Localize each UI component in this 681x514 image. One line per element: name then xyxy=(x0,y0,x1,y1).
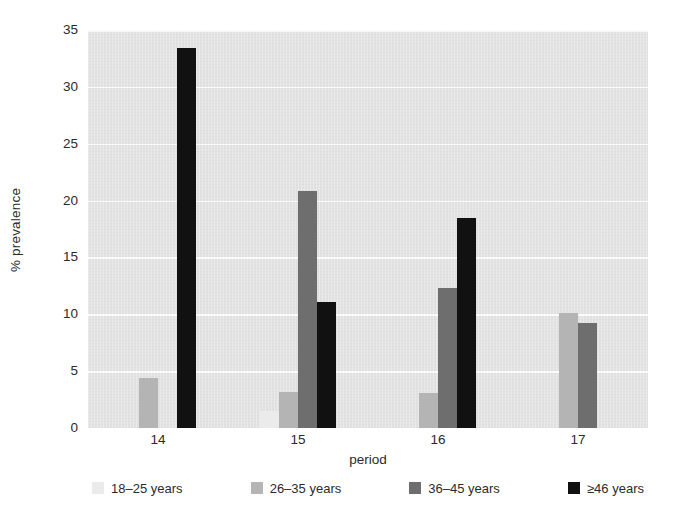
y-axis-tick-35: 35 xyxy=(26,23,78,37)
y-axis-tick-0: 0 xyxy=(26,421,78,435)
legend-item-2[interactable]: 36–45 years xyxy=(409,481,500,496)
bar-group-inner xyxy=(508,30,648,428)
bar-groups xyxy=(88,30,648,428)
y-axis-tick-30: 30 xyxy=(26,80,78,94)
y-axis-tick-10: 10 xyxy=(26,308,78,322)
legend-item-1[interactable]: 26–35 years xyxy=(251,481,342,496)
y-axis-tick-20: 20 xyxy=(26,194,78,208)
legend-swatch-icon xyxy=(568,482,580,494)
y-axis-tick-15: 15 xyxy=(26,251,78,265)
x-axis-tick-17: 17 xyxy=(508,432,648,452)
legend-item-3[interactable]: ≥46 years xyxy=(568,481,644,496)
x-axis-label: period xyxy=(88,452,648,467)
bar-15-series-2[interactable] xyxy=(298,191,317,428)
legend-swatch-icon xyxy=(251,482,263,494)
bar-group-inner xyxy=(88,30,228,428)
bar-16-series-2[interactable] xyxy=(438,288,457,428)
bar-group-15 xyxy=(228,30,368,428)
bar-16-series-1[interactable] xyxy=(419,393,438,428)
bar-17-series-1[interactable] xyxy=(559,313,578,428)
bar-group-14 xyxy=(88,30,228,428)
x-axis-tick-14: 14 xyxy=(88,432,228,452)
bar-group-inner xyxy=(228,30,368,428)
bar-chart-figure: % prevalence 05101520253035 14151617 per… xyxy=(0,0,681,514)
x-axis-tick-16: 16 xyxy=(368,432,508,452)
y-axis-tick-5: 5 xyxy=(26,364,78,378)
legend-label: 26–35 years xyxy=(270,481,342,496)
legend-label: 18–25 years xyxy=(111,481,183,496)
legend-item-0[interactable]: 18–25 years xyxy=(92,481,183,496)
x-axis-tick-labels: 14151617 xyxy=(88,432,648,452)
bar-15-series-0[interactable] xyxy=(260,411,279,428)
bar-17-series-2[interactable] xyxy=(578,323,597,428)
bar-16-series-3[interactable] xyxy=(457,218,476,428)
y-axis-tick-25: 25 xyxy=(26,137,78,151)
y-axis-label: % prevalence xyxy=(8,160,23,300)
legend-swatch-icon xyxy=(92,482,104,494)
bar-15-series-3[interactable] xyxy=(317,302,336,428)
bar-14-series-3[interactable] xyxy=(177,48,196,428)
bar-14-series-1[interactable] xyxy=(139,378,158,428)
x-axis-tick-15: 15 xyxy=(228,432,368,452)
plot-area xyxy=(88,30,648,428)
bar-group-16 xyxy=(368,30,508,428)
bar-group-inner xyxy=(368,30,508,428)
legend: 18–25 years26–35 years36–45 years≥46 yea… xyxy=(88,478,648,498)
bar-15-series-1[interactable] xyxy=(279,392,298,428)
legend-swatch-icon xyxy=(409,482,421,494)
legend-label: 36–45 years xyxy=(428,481,500,496)
bar-group-17 xyxy=(508,30,648,428)
y-axis-tick-labels: 05101520253035 xyxy=(26,0,78,514)
legend-label: ≥46 years xyxy=(587,481,644,496)
